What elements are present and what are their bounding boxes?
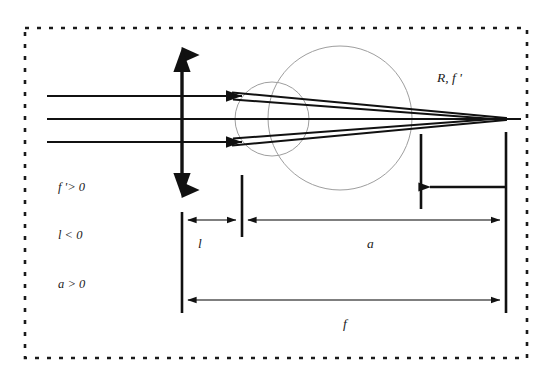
dimension-label-l: l	[198, 237, 202, 251]
surface-radius-label: R, f '	[437, 71, 462, 85]
ray-lower-refracted-b	[233, 118, 507, 139]
condition-a-positive: a > 0	[58, 278, 85, 291]
ray-upper-refracted-b	[233, 100, 507, 121]
lens-arrowhead-top	[173, 48, 190, 72]
lens-arrowhead-bottom	[173, 173, 190, 197]
condition-f-prime-positive: f '> 0	[58, 181, 85, 194]
ray-lower-refracted-a	[232, 120, 506, 146]
condition-l-negative: l < 0	[58, 229, 82, 242]
optics-diagram-figure: f '> 0 l < 0 a > 0 R, f ' l a f	[0, 0, 553, 384]
ray-upper-refracted-a	[232, 93, 506, 119]
dimension-label-f: f	[343, 317, 347, 331]
dimension-label-a: a	[367, 237, 374, 251]
